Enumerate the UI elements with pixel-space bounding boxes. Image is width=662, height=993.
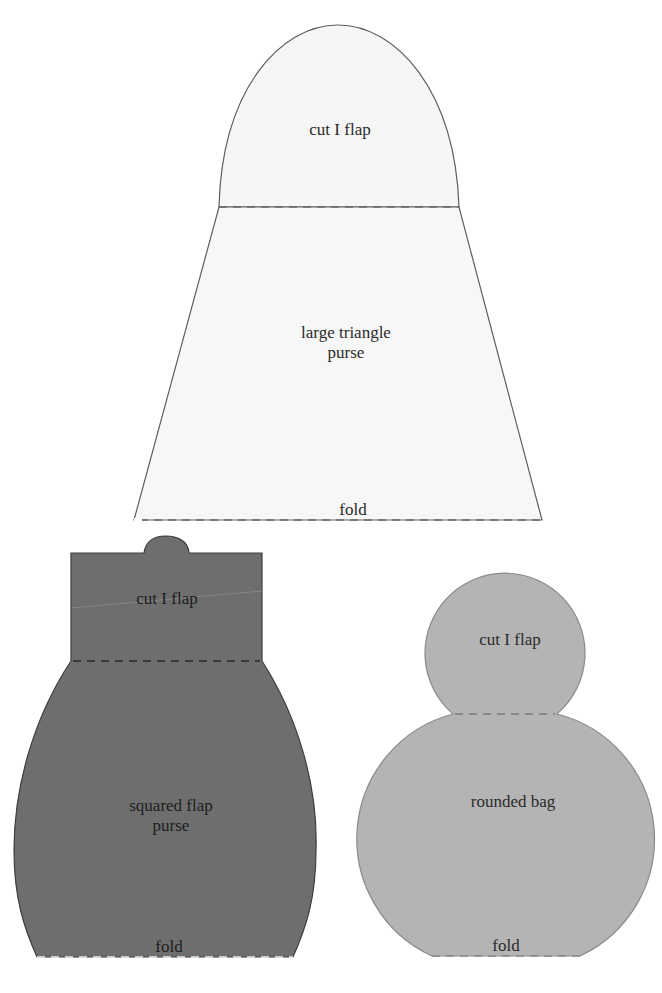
squared-purse-fold-label: fold xyxy=(155,937,182,957)
pattern-sheet xyxy=(0,0,662,993)
rounded-bag-body-label: rounded bag xyxy=(471,792,556,812)
triangle-purse-fold-label: fold xyxy=(339,500,366,520)
rounded-bag-fold-label: fold xyxy=(492,936,519,956)
triangle-purse-pattern xyxy=(134,25,542,522)
squared-purse-flap-label: cut I flap xyxy=(136,589,197,609)
rounded-bag-flap-label: cut I flap xyxy=(479,630,540,650)
triangle-purse-flap-shape xyxy=(219,25,459,207)
squared-purse-body-label: squared flap purse xyxy=(129,796,213,836)
triangle-purse-body-label: large triangle purse xyxy=(301,323,391,363)
triangle-purse-flap-label: cut I flap xyxy=(309,120,370,140)
triangle-purse-body-shape xyxy=(134,207,542,520)
